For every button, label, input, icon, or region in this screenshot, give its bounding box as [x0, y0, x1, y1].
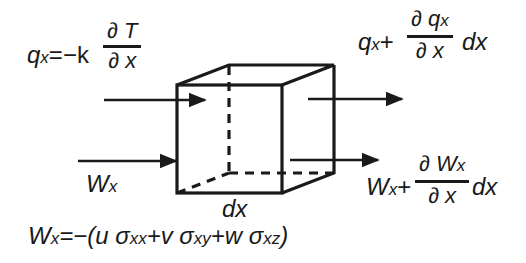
close-paren: ) [280, 222, 288, 249]
symbol-q: q [358, 28, 371, 55]
subscript-x: x [457, 156, 466, 175]
partial-q: ∂ q [411, 6, 440, 31]
plus-sign: + [397, 173, 411, 200]
hidden-edge-depth [177, 173, 229, 193]
symbol-W: W [366, 173, 389, 200]
subscript-xx: xx [130, 229, 147, 248]
subscript-x: x [51, 229, 60, 248]
partial-W: ∂ W [419, 151, 457, 176]
work-out-label: Wx+ [366, 175, 411, 202]
fraction-denominator: ∂ x [104, 50, 140, 72]
heat-flux-in-label: qx=−k [27, 43, 89, 70]
symbol-W: W [28, 222, 51, 249]
dx-suffix: dx [472, 175, 497, 199]
dqx-dx-fraction: ∂ qx ∂ x [407, 8, 453, 62]
subscript-x: x [389, 180, 398, 199]
equals-minus-k: =−k [49, 41, 89, 68]
dT-dx-fraction: ∂ T ∂ x [103, 20, 141, 72]
term-w-sigma: +w σ [211, 222, 264, 249]
term-v-sigma: +v σ [147, 222, 194, 249]
symbol-q: q [27, 41, 40, 68]
subscript-x: x [109, 177, 118, 196]
fraction-denominator: ∂ x [412, 40, 448, 62]
work-definition-equation: Wx=−(u σxx+v σxy+w σxz) [28, 224, 288, 251]
cube [177, 65, 334, 193]
heat-flux-out-label: qx+ [358, 30, 394, 57]
subscript-x: x [440, 11, 449, 30]
cube-dimension-label: dx [222, 197, 247, 221]
subscript-xz: xz [263, 229, 280, 248]
subscript-x: x [371, 35, 380, 54]
plus-sign: + [380, 28, 394, 55]
subscript-x: x [40, 48, 49, 67]
flux-arrows [78, 99, 402, 161]
top-face [177, 65, 334, 85]
fraction-numerator: ∂ T [103, 20, 141, 42]
fraction-denominator: ∂ x [424, 185, 460, 207]
term-u-sigma: =−(u σ [59, 222, 130, 249]
fraction-numerator: ∂ Wx [415, 153, 469, 177]
work-in-label: Wx [86, 172, 117, 199]
dx-suffix: dx [462, 30, 487, 54]
subscript-xy: xy [194, 229, 211, 248]
symbol-W: W [86, 170, 109, 197]
dWx-dx-fraction: ∂ Wx ∂ x [415, 153, 469, 207]
fraction-numerator: ∂ qx [407, 8, 453, 32]
